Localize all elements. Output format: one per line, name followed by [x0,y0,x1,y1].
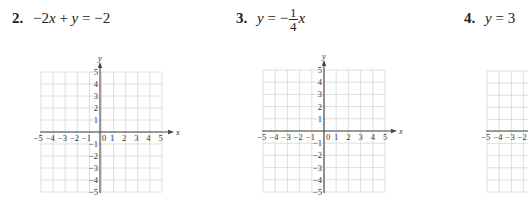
x-tick-label: −5 [481,132,490,142]
coordinate-grid-4: xy−5−4−3−2 [0,0,528,207]
x-tick-label: −2 [518,132,527,142]
x-tick-label: −3 [506,132,515,142]
x-tick-label: −4 [493,132,503,142]
